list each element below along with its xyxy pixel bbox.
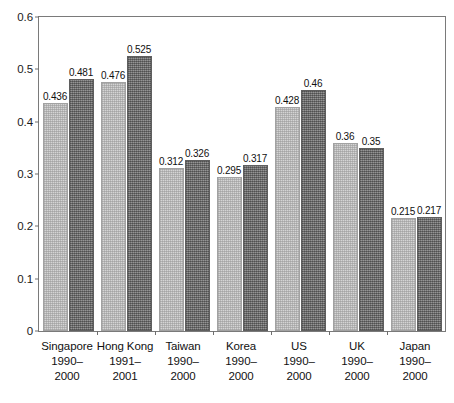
category-period-end: 2001: [96, 369, 154, 384]
category-name: Singapore: [38, 339, 96, 354]
category-name: Korea: [212, 339, 270, 354]
bar-value-label: 0.35: [362, 136, 381, 147]
category-name: US: [270, 339, 328, 354]
category-period-end: 2000: [386, 369, 444, 384]
category-period-start: 1990–: [328, 354, 386, 369]
bar-value-label: 0.312: [159, 156, 183, 167]
category-period-end: 2000: [212, 369, 270, 384]
bar-value-label: 0.525: [127, 44, 151, 55]
bar[interactable]: 0.312: [159, 168, 184, 331]
x-axis-category-label: Korea1990–2000: [212, 339, 270, 384]
bar-value-label: 0.317: [243, 153, 267, 164]
bar-group: 0.360.35: [329, 17, 387, 331]
x-axis-tick-mark: [213, 331, 214, 335]
bar[interactable]: 0.295: [217, 177, 242, 331]
x-axis-category-label: US1990–2000: [270, 339, 328, 384]
bar-group: 0.4760.525: [97, 17, 155, 331]
bar-chart: 00.10.20.30.40.50.6 0.4360.4810.4760.525…: [0, 0, 454, 403]
x-axis-tick-mark: [97, 331, 98, 335]
x-axis-category-label: Hong Kong1991–2001: [96, 339, 154, 384]
category-period-end: 2000: [270, 369, 328, 384]
bar[interactable]: 0.215: [391, 218, 416, 331]
bar-value-label: 0.295: [217, 165, 241, 176]
plot-area: 00.10.20.30.40.50.6 0.4360.4810.4760.525…: [38, 16, 446, 332]
bar[interactable]: 0.481: [69, 79, 94, 331]
bars-layer: 0.4360.4810.4760.5250.3120.3260.2950.317…: [39, 17, 445, 331]
bar[interactable]: 0.36: [333, 143, 358, 331]
category-period-start: 1990–: [386, 354, 444, 369]
category-name: Hong Kong: [96, 339, 154, 354]
bar-group: 0.4360.481: [39, 17, 97, 331]
category-name: Japan: [386, 339, 444, 354]
bar[interactable]: 0.217: [417, 217, 442, 331]
category-period-start: 1990–: [270, 354, 328, 369]
x-axis-category-label: UK1990–2000: [328, 339, 386, 384]
x-axis-tick-mark: [387, 331, 388, 335]
bar-group: 0.2950.317: [213, 17, 271, 331]
category-period-end: 2000: [154, 369, 212, 384]
bar[interactable]: 0.326: [185, 160, 210, 331]
category-period-start: 1990–: [38, 354, 96, 369]
bar[interactable]: 0.35: [359, 148, 384, 331]
bar[interactable]: 0.46: [301, 90, 326, 331]
bar-value-label: 0.326: [185, 148, 209, 159]
category-name: Taiwan: [154, 339, 212, 354]
bar-group: 0.4280.46: [271, 17, 329, 331]
bar-value-label: 0.46: [304, 78, 323, 89]
bar-group: 0.3120.326: [155, 17, 213, 331]
category-period-end: 2000: [38, 369, 96, 384]
x-axis-tick-mark: [155, 331, 156, 335]
x-axis-tick-mark: [271, 331, 272, 335]
bar-value-label: 0.481: [69, 67, 93, 78]
x-axis-category-label: Taiwan1990–2000: [154, 339, 212, 384]
category-period-end: 2000: [328, 369, 386, 384]
category-period-start: 1990–: [154, 354, 212, 369]
bar-value-label: 0.36: [336, 131, 355, 142]
bar-group: 0.2150.217: [387, 17, 445, 331]
x-axis-category-label: Japan1990–2000: [386, 339, 444, 384]
bar[interactable]: 0.436: [43, 103, 68, 331]
bar[interactable]: 0.317: [243, 165, 268, 331]
bar-value-label: 0.476: [101, 70, 125, 81]
bar-value-label: 0.428: [275, 95, 299, 106]
x-axis-tick-mark: [329, 331, 330, 335]
bar[interactable]: 0.525: [127, 56, 152, 331]
bar-value-label: 0.217: [417, 205, 441, 216]
bar-value-label: 0.215: [391, 206, 415, 217]
x-axis-category-label: Singapore1990–2000: [38, 339, 96, 384]
bar[interactable]: 0.476: [101, 82, 126, 331]
category-period-start: 1990–: [212, 354, 270, 369]
bar-value-label: 0.436: [43, 91, 67, 102]
category-name: UK: [328, 339, 386, 354]
category-period-start: 1991–: [96, 354, 154, 369]
bar[interactable]: 0.428: [275, 107, 300, 331]
